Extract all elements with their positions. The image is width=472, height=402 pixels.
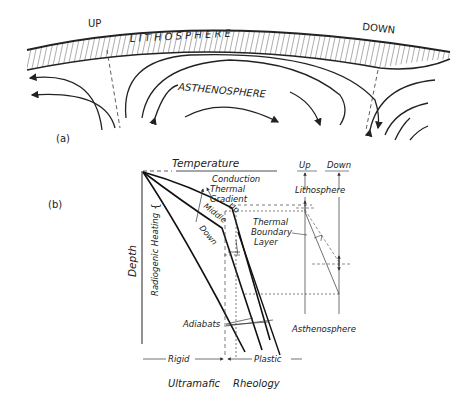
tbl-label-1: Thermal xyxy=(253,217,289,227)
col-down-label: Down xyxy=(327,160,351,170)
up-label: UP xyxy=(88,18,101,29)
asthenosphere-col-label: Asthenosphere xyxy=(291,324,356,334)
rigid-label: Rigid xyxy=(168,354,190,364)
gradient-arrow xyxy=(196,189,203,222)
col-up-label: Up xyxy=(299,160,311,170)
tbl-label-2: Boundary xyxy=(251,227,293,237)
panel-a-label: (a) xyxy=(56,133,70,144)
down-label: DOWN xyxy=(362,21,396,35)
curve-middle-label: Middle xyxy=(202,201,228,224)
thermal-label: Thermal xyxy=(210,184,246,194)
panel-b: (b) Temperature Depth Radiogenic Heating… xyxy=(48,157,356,389)
curve-down-label: Down xyxy=(197,224,218,247)
col-slope-2 xyxy=(305,212,339,294)
depth-axis-label: Depth xyxy=(126,245,138,277)
lithosphere-band xyxy=(27,30,450,70)
temperature-axis-label: Temperature xyxy=(172,157,239,169)
rheology-label-1: Ultramafic xyxy=(168,378,221,389)
up-divider xyxy=(107,50,120,128)
plastic-label: Plastic xyxy=(254,354,282,364)
brace: { xyxy=(149,203,162,210)
rheology-label-2: Rheology xyxy=(233,378,281,389)
tbl-label-3: Layer xyxy=(254,237,278,247)
radiogenic-heating-label: Radiogenic Heating xyxy=(150,212,160,296)
gradient-label: Gradient xyxy=(210,194,248,204)
mantle-convection-diagram: UP DOWN L I T H O S P H E R E ASTHENOSPH… xyxy=(0,0,472,402)
asthenosphere-label: ASTHENOSPHERE xyxy=(177,81,267,100)
panel-a: UP DOWN L I T H O S P H E R E ASTHENOSPH… xyxy=(27,18,450,144)
adiabats-label: Adiabats xyxy=(182,319,221,329)
lithosphere-col-label: Lithosphere xyxy=(295,185,345,195)
panel-b-label: (b) xyxy=(48,199,62,210)
conduction-label: Conduction xyxy=(212,174,260,184)
